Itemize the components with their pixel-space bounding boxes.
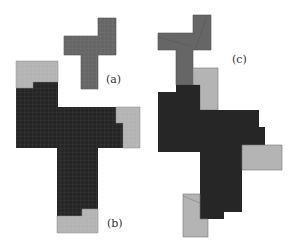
label-c: (c) [232, 53, 247, 66]
shape-c [158, 15, 282, 237]
label-a: (a) [106, 73, 121, 86]
diagram-canvas [0, 0, 295, 248]
shape-b [16, 61, 140, 233]
label-b: (b) [107, 217, 123, 230]
